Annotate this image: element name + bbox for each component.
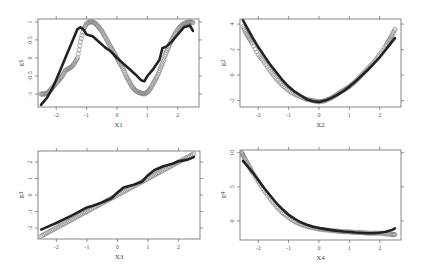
x-tick-label: -1 [84, 112, 89, 118]
y-tick-label: 0 [27, 56, 33, 59]
x-tick-label: 1 [348, 245, 351, 251]
x-tick-label: -1 [286, 245, 291, 251]
data-point [76, 52, 80, 56]
x-axis-label: X2 [316, 121, 325, 129]
x-tick-label: -2 [54, 112, 59, 118]
data-point [77, 48, 81, 52]
y-tick-label: 0 [229, 219, 235, 222]
fitted-curve [243, 161, 395, 233]
x-tick-label: 2 [177, 244, 180, 250]
x-axis-label: X3 [115, 253, 124, 261]
y-tick-label: 1 [27, 20, 33, 23]
y-tick-label: 2 [229, 48, 235, 51]
data-point [78, 44, 82, 48]
y-tick-label: 4 [229, 23, 235, 26]
fitted-curve [41, 26, 193, 105]
y-axis-label: g4 [219, 191, 227, 199]
x-tick-label: -2 [256, 112, 261, 118]
x-tick-label: 2 [176, 112, 179, 118]
y-axis-label: g3 [17, 191, 25, 199]
plot-area [39, 152, 196, 239]
plot-area [241, 20, 397, 104]
x-tick-label: 1 [147, 244, 150, 250]
panel-g4-vs-x4: -2-10120510X4g4 [219, 147, 404, 262]
y-axis-label: g1 [17, 59, 25, 67]
y-tick-label: 1 [27, 177, 33, 180]
plot-area [239, 151, 397, 237]
x-tick-label: 0 [116, 244, 119, 250]
y-tick-label: 5 [229, 185, 235, 188]
y-tick-label: -2 [229, 98, 235, 103]
x-tick-label: 0 [317, 245, 320, 251]
panel-g1-vs-x1: -2-1012-1-0.500.51X1g1 [17, 16, 202, 129]
figure-canvas: -2-1012-1-0.500.51X1g1 -2-1012-2024X2g2 … [0, 0, 423, 269]
plot-area [39, 20, 195, 105]
x-tick-label: 2 [378, 112, 381, 118]
x-tick-label: 1 [348, 112, 351, 118]
y-tick-label: -1 [27, 209, 33, 214]
panel-g2-vs-x2: -2-1012-2024X2g2 [219, 16, 404, 129]
plot-frame [240, 150, 401, 240]
y-tick-label: -2 [27, 225, 33, 230]
y-tick-label: 10 [229, 150, 235, 156]
x-axis-label: X4 [316, 254, 325, 262]
y-axis-label: g2 [219, 59, 227, 67]
y-tick-label: 0 [229, 74, 235, 77]
y-tick-label: 0 [27, 194, 33, 197]
x-tick-label: -1 [84, 244, 89, 250]
x-tick-label: 1 [146, 112, 149, 118]
x-tick-label: 0 [317, 112, 320, 118]
x-tick-label: -2 [256, 245, 261, 251]
x-tick-label: -1 [286, 112, 291, 118]
x-tick-label: 2 [378, 245, 381, 251]
x-tick-label: -2 [54, 244, 59, 250]
y-tick-label: 0.5 [27, 36, 33, 44]
panel-g3-vs-x3: -2-1012-2-1012X3g3 [17, 148, 203, 261]
y-tick-label: -1 [27, 92, 33, 97]
y-tick-label: -0.5 [27, 71, 33, 81]
x-axis-label: X1 [114, 121, 123, 129]
x-tick-label: 0 [115, 112, 118, 118]
observed-points [239, 151, 397, 237]
y-tick-label: 2 [27, 161, 33, 164]
